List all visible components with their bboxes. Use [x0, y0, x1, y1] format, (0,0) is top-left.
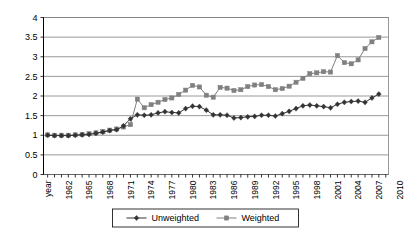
- data-point-diamond: [169, 110, 174, 115]
- data-point-square: [308, 72, 312, 76]
- gridlines: [44, 18, 389, 175]
- legend-label-unweighted[interactable]: Unweighted: [152, 213, 200, 223]
- data-point-square: [149, 103, 153, 107]
- data-point-square: [259, 83, 263, 87]
- x-tick-label: 1998: [312, 180, 322, 199]
- x-tick-label: 1968: [105, 180, 115, 199]
- y-axis-labels: 00.511.522.533.54: [25, 13, 38, 180]
- data-point-square: [156, 100, 160, 104]
- data-point-square: [280, 86, 284, 90]
- data-point-diamond: [135, 112, 140, 117]
- x-tick-label: 1962: [64, 180, 74, 199]
- data-point-diamond: [307, 102, 312, 107]
- data-point-square: [232, 88, 236, 92]
- y-tick-label: 1.5: [25, 111, 38, 121]
- data-point-diamond: [183, 106, 188, 111]
- data-point-diamond: [294, 106, 299, 111]
- data-point-square: [224, 216, 228, 220]
- data-point-diamond: [273, 113, 278, 118]
- data-point-diamond: [156, 110, 161, 115]
- y-tick-label: 0.5: [25, 150, 38, 160]
- data-point-diamond: [163, 109, 168, 114]
- series-line: [48, 38, 379, 136]
- x-tick-label: 2010: [395, 180, 405, 199]
- data-point-diamond: [211, 112, 216, 117]
- data-point-square: [184, 88, 188, 92]
- data-point-square: [204, 93, 208, 97]
- series-weighted: [46, 35, 381, 137]
- x-tick-label: 1974: [146, 180, 156, 199]
- data-point-diamond: [259, 113, 264, 118]
- data-point-diamond: [204, 108, 209, 113]
- data-point-square: [170, 96, 174, 100]
- data-point-diamond: [314, 103, 319, 108]
- x-axis-labels: year196219651968197119741977198019831986…: [43, 180, 405, 199]
- data-point-diamond: [363, 100, 368, 105]
- data-point-diamond: [287, 109, 292, 114]
- data-point-diamond: [342, 100, 347, 105]
- data-point-diamond: [218, 112, 223, 117]
- data-point-square: [225, 86, 229, 90]
- data-point-square: [273, 88, 277, 92]
- chart-legend: UnweightedWeighted: [113, 209, 299, 227]
- x-tick-label: 1995: [291, 180, 301, 199]
- data-point-square: [322, 70, 326, 74]
- data-point-diamond: [190, 104, 195, 109]
- data-point-square: [218, 85, 222, 89]
- y-tick-label: 1: [32, 130, 37, 140]
- x-tick-label: 1977: [167, 180, 177, 199]
- data-point-square: [328, 70, 332, 74]
- y-tick-label: 4: [32, 13, 37, 23]
- data-point-square: [190, 83, 194, 87]
- data-point-diamond: [328, 105, 333, 110]
- data-point-square: [246, 84, 250, 88]
- data-point-diamond: [232, 115, 237, 120]
- data-point-diamond: [356, 99, 361, 104]
- legend-label-weighted[interactable]: Weighted: [242, 213, 280, 223]
- y-tick-label: 3: [32, 52, 37, 62]
- chart-container: 00.511.522.533.54 year196219651968197119…: [0, 0, 411, 236]
- data-point-square: [253, 83, 257, 87]
- data-point-diamond: [225, 113, 230, 118]
- data-point-diamond: [349, 99, 354, 104]
- x-tick-label: 1992: [271, 180, 281, 199]
- data-point-diamond: [266, 113, 271, 118]
- data-point-diamond: [301, 103, 306, 108]
- x-tick-label: 1983: [208, 180, 218, 199]
- x-tick-label: 1980: [188, 180, 198, 199]
- data-point-square: [177, 92, 181, 96]
- x-tick-label: 1986: [229, 180, 239, 199]
- data-point-square: [294, 80, 298, 84]
- x-tick-label: year: [43, 180, 53, 197]
- data-point-diamond: [149, 112, 154, 117]
- x-tick-label: 2001: [333, 180, 343, 199]
- data-point-square: [301, 76, 305, 80]
- data-point-diamond: [197, 104, 202, 109]
- x-tick-label: 1989: [250, 180, 260, 199]
- data-point-square: [356, 58, 360, 62]
- x-tick-label: 2007: [374, 180, 384, 199]
- line-chart: 00.511.522.533.54 year196219651968197119…: [0, 0, 411, 236]
- data-point-diamond: [252, 114, 257, 119]
- y-tick-label: 3.5: [25, 32, 38, 42]
- data-point-square: [128, 123, 132, 127]
- data-point-diamond: [335, 102, 340, 107]
- data-point-square: [197, 85, 201, 89]
- data-point-square: [315, 71, 319, 75]
- data-series: [45, 35, 381, 138]
- data-point-square: [342, 61, 346, 65]
- data-point-square: [349, 62, 353, 66]
- data-point-diamond: [176, 110, 181, 115]
- y-tick-label: 2.5: [25, 72, 38, 82]
- data-point-square: [266, 84, 270, 88]
- y-tick-label: 0: [32, 170, 37, 180]
- data-point-square: [335, 53, 339, 57]
- data-point-square: [239, 88, 243, 92]
- data-point-square: [370, 40, 374, 44]
- data-point-square: [363, 46, 367, 50]
- x-tick-label: 1965: [84, 180, 94, 199]
- data-point-square: [163, 97, 167, 101]
- data-point-square: [211, 95, 215, 99]
- data-point-square: [135, 97, 139, 101]
- x-tick-label: 2004: [353, 180, 363, 199]
